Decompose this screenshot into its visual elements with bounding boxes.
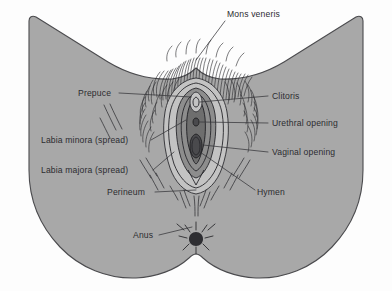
label-labia-minora: Labia minora (spread) <box>41 135 128 145</box>
label-clitoris: Clitoris <box>272 91 299 101</box>
label-labia-majora: Labia majora (spread) <box>41 165 128 175</box>
label-vaginal-opening: Vaginal opening <box>272 147 335 157</box>
label-hymen: Hymen <box>257 187 285 197</box>
label-prepuce: Prepuce <box>78 88 111 98</box>
label-perineum: Perineum <box>107 187 145 197</box>
label-anus: Anus <box>133 230 153 240</box>
anatomy-figure: Mons veneris Prepuce Labia minora (sprea… <box>0 0 392 291</box>
label-urethral-opening: Urethral opening <box>272 118 338 128</box>
figure-canvas: Mons veneris Prepuce Labia minora (sprea… <box>0 0 392 291</box>
leader-mons-veneris <box>196 21 225 60</box>
label-mons-veneris: Mons veneris <box>227 9 280 19</box>
urethral-opening-mark <box>193 118 199 126</box>
anus-center <box>189 232 203 246</box>
vulva-contours-group <box>164 78 229 194</box>
